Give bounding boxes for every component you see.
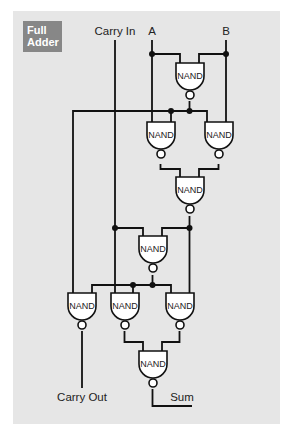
- nand-gate-6: NAND: [68, 293, 96, 329]
- gate-label: NAND: [177, 185, 203, 195]
- gate-label: NAND: [140, 359, 166, 369]
- label-sum: Sum: [170, 391, 194, 403]
- nand-gate-3: NAND: [205, 122, 233, 158]
- gate-label: NAND: [167, 301, 193, 311]
- gate-label: NAND: [112, 301, 138, 311]
- nand-gate-7: NAND: [111, 293, 139, 329]
- full-adder-circuit: NAND NAND NAND NAND NAND NAND NAND NAND …: [0, 0, 287, 438]
- label-carry-out: Carry Out: [57, 391, 108, 403]
- nand-gate-2: NAND: [147, 122, 175, 158]
- gate-label: NAND: [148, 130, 174, 140]
- gate-label: NAND: [140, 244, 166, 254]
- gate-label: NAND: [206, 130, 232, 140]
- label-input-a: A: [148, 25, 156, 37]
- label-input-b: B: [222, 25, 230, 37]
- gate-label: NAND: [69, 301, 95, 311]
- label-carry-in: Carry In: [95, 25, 136, 37]
- nand-gate-8: NAND: [166, 293, 194, 329]
- nand-gate-9: NAND: [139, 351, 167, 387]
- nand-gate-1: NAND: [176, 63, 204, 99]
- nand-gate-5: NAND: [139, 236, 167, 272]
- gate-label: NAND: [177, 71, 203, 81]
- nand-gate-4: NAND: [176, 177, 204, 213]
